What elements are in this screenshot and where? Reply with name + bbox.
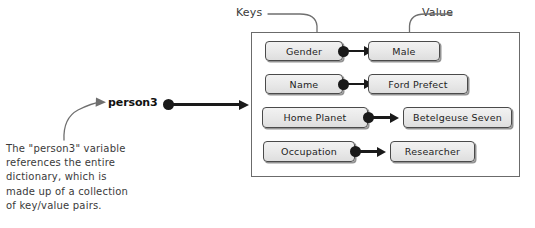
caption-line-2: references the entire	[6, 156, 202, 170]
key-chip-home-planet: Home Planet	[262, 107, 368, 128]
annotation-keys-label: Keys	[236, 6, 262, 19]
caption-line-3: dictionary, which is	[6, 170, 202, 184]
caption-leader-arrow-icon	[64, 102, 101, 140]
value-chip-betelgeuse-seven: Betelgeuse Seven	[403, 107, 512, 128]
value-chip-male-label: Male	[392, 45, 415, 56]
pair-arrow-line-3	[358, 150, 378, 153]
key-chip-name-label: Name	[290, 78, 319, 89]
key-chip-gender-label: Gender	[286, 45, 322, 56]
value-chip-male: Male	[368, 41, 440, 61]
pair-arrow-head-icon-2	[390, 113, 399, 123]
value-chip-researcher: Researcher	[390, 141, 475, 162]
key-chip-gender: Gender	[265, 41, 343, 61]
caption-line-1: The "person3" variable	[6, 142, 202, 156]
annotation-value-label: Value	[422, 6, 453, 19]
caption-line-5: of key/value pairs.	[6, 199, 202, 213]
pair-arrow-line-2	[371, 116, 391, 119]
value-chip-researcher-label: Researcher	[405, 146, 460, 157]
dictionary-diagram: Keys Value person3 Gender Male Name	[0, 0, 535, 228]
caption-leader-arrowhead-icon	[96, 98, 106, 107]
value-chip-ford-prefect: Ford Prefect	[368, 74, 468, 94]
reference-arrow-line	[172, 103, 240, 106]
reference-arrow-head-icon	[239, 100, 249, 110]
variable-label-person3: person3	[108, 96, 158, 109]
pair-arrow-line-1	[346, 83, 365, 86]
pair-arrow-line-0	[346, 50, 365, 53]
value-chip-betelgeuse-seven-label: Betelgeuse Seven	[413, 112, 502, 123]
caption-line-4: made up of a collection	[6, 185, 202, 199]
pair-arrow-head-icon-3	[377, 147, 386, 157]
caption-text: The "person3" variable references the en…	[6, 142, 202, 213]
key-chip-home-planet-label: Home Planet	[283, 112, 346, 123]
key-chip-occupation-label: Occupation	[281, 146, 337, 157]
value-chip-ford-prefect-label: Ford Prefect	[388, 78, 447, 89]
key-chip-occupation: Occupation	[263, 141, 355, 162]
key-chip-name: Name	[265, 74, 343, 94]
